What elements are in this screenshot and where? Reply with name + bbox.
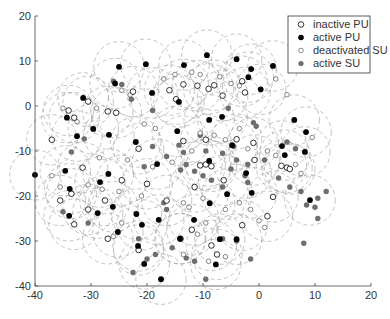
active-su-point — [176, 142, 181, 147]
legend-item-deactivated-su: deactivated SU — [299, 44, 388, 56]
x-tick-label: 10 — [309, 289, 321, 301]
active-su-point — [284, 139, 289, 144]
inactive-pu-point — [113, 110, 119, 116]
active-su-point — [181, 150, 186, 155]
deactivated-su-point — [265, 149, 270, 154]
active-pu-point — [116, 64, 122, 70]
inactive-pu-point — [242, 90, 248, 96]
deactivated-su-point — [94, 106, 99, 111]
inactive-pu-point — [71, 222, 77, 228]
active-su-point — [203, 277, 208, 282]
deactivated-su-point — [153, 126, 158, 131]
active-su-point — [254, 124, 259, 129]
active-su-point — [130, 270, 135, 275]
active-pu-point — [106, 132, 112, 138]
inactive-pu-point — [234, 137, 240, 143]
active-su-point — [262, 157, 267, 162]
inactive-pu-point — [136, 146, 142, 152]
active-su-point — [315, 216, 320, 221]
active-su-point — [129, 97, 134, 102]
deactivated-su-point — [310, 135, 315, 140]
x-tick-label: 0 — [256, 289, 262, 301]
active-su-point — [170, 245, 175, 250]
deactivated-su-point — [229, 81, 234, 86]
deactivated-su-point — [181, 252, 186, 257]
active-pu-point — [234, 56, 240, 62]
active-pu-point — [248, 66, 254, 72]
active-pu-point — [115, 229, 121, 235]
y-tick-label: 0 — [25, 100, 31, 112]
inactive-pu-point — [195, 83, 201, 89]
active-pu-point — [176, 99, 182, 105]
active-su-point — [86, 220, 91, 225]
active-pu-point — [105, 171, 111, 177]
deactivated-su-point — [246, 146, 251, 151]
deactivated-su-point — [181, 200, 186, 205]
deactivated-su-point — [61, 106, 66, 111]
active-pu-point — [206, 117, 212, 123]
active-su-point — [203, 148, 208, 153]
inactive-pu-point — [252, 157, 258, 163]
active-su-point — [150, 144, 155, 149]
deactivated-su-point — [218, 74, 223, 79]
active-pu-point — [270, 63, 276, 69]
active-pu-point — [149, 90, 155, 96]
deactivated-su-point — [262, 225, 267, 230]
inactive-pu-point — [239, 78, 245, 84]
active-su-point — [82, 136, 87, 141]
active-su-point — [184, 162, 189, 167]
deactivated-su-point — [190, 149, 195, 154]
y-tick-label: -10 — [15, 145, 31, 157]
active-pu-point — [206, 158, 212, 164]
scatter-chart: -40-30-20-1001020-40-30-20-1001020 inact… — [0, 0, 390, 319]
active-pu-point — [282, 152, 288, 158]
inactive-pu-point — [192, 184, 198, 190]
inactive-pu-point — [105, 236, 111, 242]
deactivated-su-point — [198, 131, 203, 136]
deactivated-su-point — [204, 221, 209, 226]
x-tick-label: 20 — [365, 289, 377, 301]
active-su-point — [324, 189, 329, 194]
active-su-point — [293, 146, 298, 151]
active-pu-point — [217, 236, 223, 242]
deactivated-su-point — [50, 173, 55, 178]
inactive-pu-point — [203, 137, 209, 143]
active-su-point — [245, 162, 250, 167]
active-pu-point — [158, 276, 164, 282]
inactive-pu-point — [119, 177, 125, 183]
deactivated-su-point — [142, 122, 147, 127]
legend-label: active SU — [313, 57, 360, 69]
active-pu-point — [95, 210, 101, 216]
active-su-point — [164, 154, 169, 159]
inactive-pu-point — [144, 181, 150, 187]
inactive-pu-point — [85, 99, 91, 105]
active-pu-point — [213, 262, 219, 268]
deactivated-su-point — [201, 196, 206, 201]
active-pu-point — [307, 197, 313, 203]
inactive-pu-point — [69, 191, 75, 197]
deactivated-su-point — [198, 72, 203, 77]
deactivated-su-point — [120, 88, 125, 93]
inactive-pu-point — [206, 86, 212, 92]
active-su-point — [234, 157, 239, 162]
deactivated-su-point — [117, 189, 122, 194]
inactive-pu-point — [251, 140, 257, 146]
inactive-pu-point — [197, 163, 203, 169]
y-tick-label: 10 — [19, 55, 31, 67]
inactive-pu-point — [220, 93, 226, 99]
deactivated-su-point — [86, 182, 91, 187]
deactivated-su-point — [58, 185, 63, 190]
deactivated-su-point — [111, 234, 116, 239]
x-tick-label: -20 — [139, 289, 155, 301]
deactivated-su-point — [206, 259, 211, 264]
deactivated-su-point — [237, 200, 242, 205]
active-pu-point — [141, 261, 147, 267]
deactivated-su-point — [170, 160, 175, 165]
deactivated-su-point — [97, 155, 102, 160]
active-su-point — [144, 256, 149, 261]
deactivated-su-point — [150, 164, 155, 169]
active-pu-point — [133, 211, 139, 217]
deactivated-su-point — [125, 158, 130, 163]
inactive-pu-point — [102, 198, 108, 204]
filled-circle-icon — [298, 35, 304, 41]
